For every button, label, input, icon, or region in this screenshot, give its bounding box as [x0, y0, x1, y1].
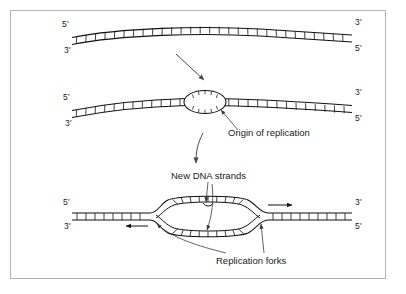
figure-canvas: [0, 0, 406, 294]
panel-2-right-bottom-end-label: 5': [355, 114, 362, 123]
panel-3-right-bottom-end-label: 5': [355, 222, 362, 231]
origin-of-replication-label: Origin of replication: [228, 128, 310, 138]
panel-2-right-top-end-label: 3': [355, 88, 362, 97]
panel-2-left-bottom-end-label: 3': [65, 119, 72, 128]
panel-1-right-bottom-end-label: 5': [355, 44, 362, 53]
panel-3-left-top-end-label: 5': [63, 198, 70, 207]
panel-1-left-top-end-label: 5': [62, 20, 69, 29]
new-dna-strands-label: New DNA strands: [171, 171, 246, 181]
panel-1-right-top-end-label: 3': [355, 18, 362, 27]
panel-3-right-top-end-label: 3': [355, 198, 362, 207]
replication-forks-label: Replication forks: [216, 256, 286, 266]
panel-3-left-bottom-end-label: 3': [64, 222, 71, 231]
panel-1-left-bottom-end-label: 3': [64, 46, 71, 55]
panel-2-left-top-end-label: 5': [63, 93, 70, 102]
dna-replication-figure: 5' 3' 3' 5' 5' 3' 3' 5' 5' 3' 3' 5' Orig…: [0, 0, 406, 294]
